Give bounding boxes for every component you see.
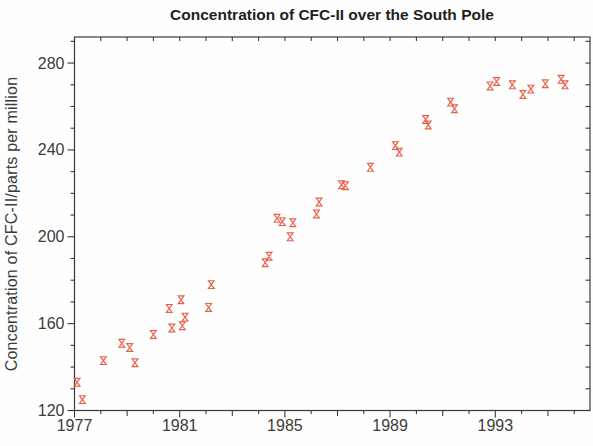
data-point — [101, 357, 107, 365]
data-point — [528, 85, 534, 93]
cfc-concentration-figure: Concentration of CFC-II over the South P… — [0, 0, 593, 446]
chart-title: Concentration of CFC-II over the South P… — [170, 6, 494, 23]
y-tick-label: 280 — [38, 55, 65, 72]
data-point — [182, 313, 188, 321]
data-point — [80, 396, 86, 404]
plot-svg: Concentration of CFC-II over the South P… — [0, 0, 593, 446]
data-point — [314, 210, 320, 218]
x-tick-label: 1977 — [57, 417, 93, 434]
data-point — [178, 296, 184, 304]
x-tick-label: 1993 — [478, 417, 514, 434]
data-point — [127, 344, 133, 352]
data-point — [542, 80, 548, 88]
data-point — [266, 252, 272, 260]
data-point — [520, 91, 526, 99]
data-point — [132, 359, 138, 367]
data-point — [487, 82, 493, 90]
data-point — [119, 339, 125, 347]
data-point — [396, 148, 402, 156]
data-point — [166, 305, 172, 313]
data-point — [151, 331, 157, 339]
data-point — [279, 218, 285, 226]
data-point — [562, 81, 568, 89]
y-tick-label: 120 — [38, 402, 65, 419]
y-axis-title: Concentration of CFC-II/parts per millio… — [3, 77, 20, 372]
data-point — [206, 304, 212, 312]
data-point — [274, 214, 280, 222]
data-point — [290, 219, 296, 227]
data-points-layer — [74, 75, 568, 403]
x-tick-label: 1981 — [162, 417, 198, 434]
plot-border — [75, 37, 591, 411]
axes-layer: 19771981198519891993120160200240280 — [38, 37, 590, 434]
data-point — [368, 163, 374, 171]
data-point — [287, 233, 293, 241]
data-point — [494, 78, 500, 86]
data-point — [169, 324, 175, 332]
y-tick-label: 200 — [38, 228, 65, 245]
x-tick-label: 1989 — [372, 417, 408, 434]
x-tick-label: 1985 — [267, 417, 303, 434]
data-point — [510, 81, 516, 89]
y-tick-label: 240 — [38, 141, 65, 158]
data-point — [343, 182, 349, 190]
y-tick-label: 160 — [38, 315, 65, 332]
data-point — [208, 281, 214, 289]
data-point — [452, 105, 458, 113]
data-point — [316, 198, 322, 206]
data-point — [179, 322, 185, 330]
